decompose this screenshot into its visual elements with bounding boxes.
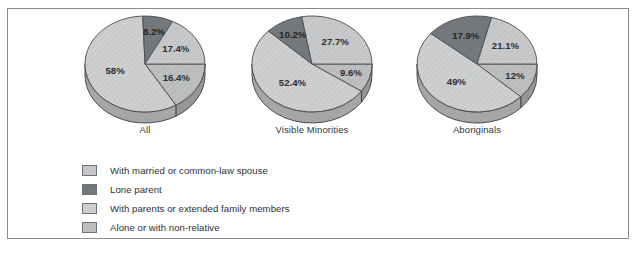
- legend-item: With parents or extended family members: [82, 199, 502, 217]
- legend-swatch-lone-parent-icon: [82, 184, 97, 195]
- legend-swatch-married-icon: [82, 165, 97, 176]
- pie-chart-aboriginals: 12%49%17.9%21.1% Aboriginals: [392, 12, 562, 150]
- pie-chart-visible-minorities: 9.6%52.4%10.2%27.7% Visible Minorities: [227, 12, 397, 150]
- pie-graphic-1: 9.6%52.4%10.2%27.7%: [227, 12, 397, 124]
- pie-slice-label: 9.6%: [340, 67, 362, 78]
- pie-slice-label: 49%: [447, 76, 467, 87]
- pie-graphic-0: 16.4%58%8.2%17.4%: [60, 12, 230, 124]
- legend-item: With married or common-law spouse: [82, 161, 502, 179]
- legend-swatch-extended-family-icon: [82, 203, 97, 214]
- pie-svg-0: 16.4%58%8.2%17.4%: [60, 12, 230, 124]
- pie-svg-1: 9.6%52.4%10.2%27.7%: [227, 12, 397, 124]
- pie-chart-all: 16.4%58%8.2%17.4% All: [60, 12, 230, 150]
- legend-label: With married or common-law spouse: [110, 165, 268, 176]
- legend-swatch-alone-icon: [82, 222, 97, 233]
- pie-slice-label: 52.4%: [279, 77, 307, 88]
- legend-label: Alone or with non-relative: [110, 222, 220, 233]
- pie-slice-label: 10.2%: [279, 29, 307, 40]
- legend-label: With parents or extended family members: [110, 203, 290, 214]
- pie-slice-label: 58%: [105, 65, 125, 76]
- pie-slice-label: 27.7%: [322, 36, 350, 47]
- pie-slice-label: 12%: [505, 70, 525, 81]
- pie-graphic-2: 12%49%17.9%21.1%: [392, 12, 562, 124]
- pie-caption-2: Aboriginals: [392, 124, 562, 135]
- pie-slice-label: 8.2%: [143, 26, 165, 37]
- pie-slice-label: 16.4%: [163, 72, 191, 83]
- legend-item: Lone parent: [82, 180, 502, 198]
- pie-caption-0: All: [60, 124, 230, 135]
- pie-charts-row: 16.4%58%8.2%17.4% All 9.6%52.4%10.2%27.7…: [0, 0, 638, 150]
- legend-label: Lone parent: [110, 184, 162, 195]
- pie-slice-label: 17.4%: [162, 43, 190, 54]
- pie-slice-label: 17.9%: [452, 30, 480, 41]
- pie-slice-label: 21.1%: [492, 40, 520, 51]
- chart-page: 16.4%58%8.2%17.4% All 9.6%52.4%10.2%27.7…: [0, 0, 638, 253]
- legend: With married or common-law spouse Lone p…: [82, 161, 502, 237]
- pie-caption-1: Visible Minorities: [227, 124, 397, 135]
- pie-svg-2: 12%49%17.9%21.1%: [392, 12, 562, 124]
- legend-item: Alone or with non-relative: [82, 218, 502, 236]
